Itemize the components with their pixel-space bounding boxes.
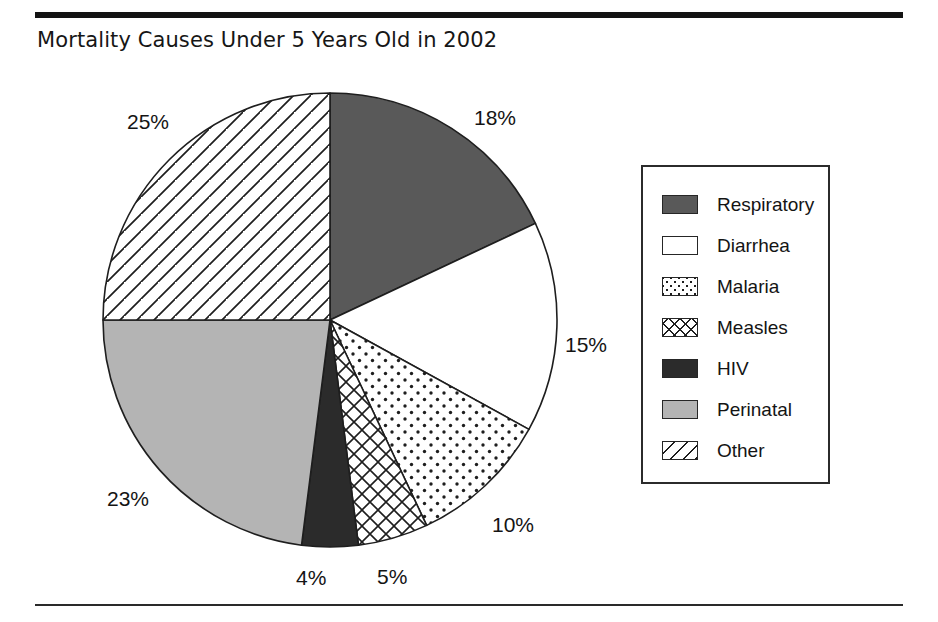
legend-item-label: Malaria <box>717 276 779 298</box>
figure-root: Mortality Causes Under 5 Years Old in 20… <box>0 0 938 622</box>
legend-swatch-diagonal-stripes-icon <box>662 441 698 460</box>
pie-chart-svg <box>90 78 580 568</box>
pie-percent-label: 4% <box>296 566 326 590</box>
legend-item-label: Perinatal <box>717 399 792 421</box>
pie-percent-label: 23% <box>107 487 149 511</box>
legend-item-label: Respiratory <box>717 194 814 216</box>
pie-percent-label: 18% <box>474 106 516 130</box>
legend-swatch-solid-dark-gray-icon <box>662 195 698 214</box>
top-rule-divider <box>35 12 903 18</box>
legend-item-diarrhea[interactable]: Diarrhea <box>643 225 828 266</box>
pie-slice-perinatal[interactable] <box>103 320 330 545</box>
legend-item-label: Measles <box>717 317 788 339</box>
legend-list: RespiratoryDiarrheaMalariaMeaslesHIVPeri… <box>643 167 828 471</box>
legend-item-label: Diarrhea <box>717 235 790 257</box>
legend-swatch-dots-icon <box>662 277 698 296</box>
legend-item-respiratory[interactable]: Respiratory <box>643 184 828 225</box>
bottom-rule-divider <box>35 604 903 606</box>
legend-swatch-solid-black-icon <box>662 359 698 378</box>
legend-swatch-cross-hatch-icon <box>662 318 698 337</box>
legend-item-malaria[interactable]: Malaria <box>643 266 828 307</box>
legend-item-perinatal[interactable]: Perinatal <box>643 389 828 430</box>
legend-item-label: Other <box>717 440 765 462</box>
pie-percent-label: 5% <box>377 565 407 589</box>
legend-item-label: HIV <box>717 358 749 380</box>
legend-swatch-solid-light-gray-icon <box>662 400 698 419</box>
legend-item-other[interactable]: Other <box>643 430 828 471</box>
pie-percent-label: 10% <box>492 513 534 537</box>
legend-item-measles[interactable]: Measles <box>643 307 828 348</box>
pie-percent-label: 15% <box>565 333 607 357</box>
legend-swatch-solid-white-icon <box>662 236 698 255</box>
pie-percent-label: 25% <box>127 110 169 134</box>
legend: RespiratoryDiarrheaMalariaMeaslesHIVPeri… <box>641 165 830 484</box>
legend-item-hiv[interactable]: HIV <box>643 348 828 389</box>
page-title: Mortality Causes Under 5 Years Old in 20… <box>37 28 497 52</box>
pie-chart <box>90 78 580 568</box>
